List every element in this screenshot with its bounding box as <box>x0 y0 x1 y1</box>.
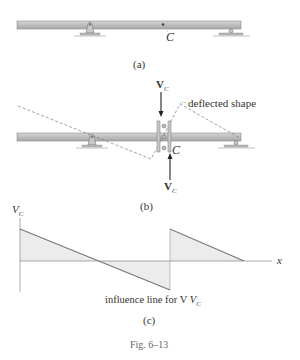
beam-a <box>17 21 241 29</box>
roller-support-icon <box>218 141 255 148</box>
panel-c-graph <box>20 218 272 292</box>
influence-line-caption: influence line for V VC <box>105 294 201 308</box>
panel-a <box>17 21 250 36</box>
deflected-shape-label: deflected shape <box>188 97 256 109</box>
influence-line-caption-text: influence line for V <box>105 294 187 305</box>
x-axis-label: x <box>277 254 282 266</box>
panel-c-label: (c) <box>143 314 155 326</box>
panel-a-label: (a) <box>133 58 145 70</box>
y-axis-symbol: V <box>12 203 19 215</box>
force-top-subscript: C <box>164 85 169 93</box>
force-top-label: VC <box>156 78 169 93</box>
beam-b <box>17 133 241 141</box>
point-c-label-a: C <box>166 30 174 45</box>
y-axis-subscript: C <box>19 210 24 218</box>
force-arrow-down-icon <box>159 92 164 117</box>
roller-support-icon <box>213 29 250 36</box>
influence-caption-subscript: C <box>196 300 201 308</box>
shear-release-device-icon <box>157 121 171 152</box>
figure-caption: Fig. 6–13 <box>130 339 168 350</box>
deflected-shape-line <box>18 104 240 159</box>
force-bottom-label: VC <box>164 180 177 195</box>
point-c-marker <box>162 23 165 26</box>
y-axis-label: VC <box>12 203 23 218</box>
force-bottom-symbol: V <box>164 180 172 192</box>
force-top-symbol: V <box>156 78 164 90</box>
panel-b-label: (b) <box>140 200 153 212</box>
force-bottom-subscript: C <box>172 187 177 195</box>
point-c-label-b: C <box>172 143 180 158</box>
